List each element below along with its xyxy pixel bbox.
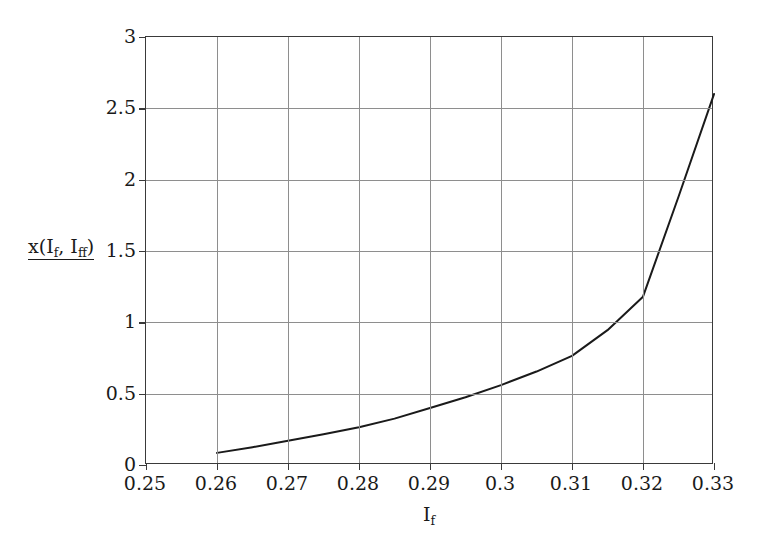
- gridline-horizontal: [146, 251, 712, 252]
- plot-area: [145, 36, 713, 464]
- y-axis-tick-label: 1: [124, 312, 136, 331]
- y-axis-tick-mark: [139, 322, 146, 323]
- gridline-horizontal: [146, 394, 712, 395]
- x-axis-tick-mark: [643, 463, 644, 470]
- gridline-horizontal: [146, 180, 712, 181]
- y-axis-tick-label: 3: [124, 27, 136, 46]
- x-axis-title: If: [145, 505, 713, 524]
- x-axis-tick-mark: [288, 463, 289, 470]
- y-axis-title-main: x(I: [28, 235, 54, 257]
- y-axis-title-subscript-2: ff: [78, 245, 87, 260]
- y-axis-tick-mark: [139, 251, 146, 252]
- x-axis-tick-mark: [430, 463, 431, 470]
- x-axis-tick-labels: 0.250.260.270.280.290.30.310.320.33: [145, 474, 713, 500]
- y-axis-tick-mark: [139, 394, 146, 395]
- gridline-vertical: [572, 37, 573, 463]
- y-axis-title-middle: , I: [58, 235, 78, 257]
- y-axis-tick-mark: [139, 108, 146, 109]
- y-axis-tick-label: 2.5: [106, 98, 136, 117]
- x-axis-tick-label: 0.32: [621, 474, 663, 493]
- x-axis-tick-mark: [501, 463, 502, 470]
- data-series-line: [217, 94, 714, 453]
- x-axis-tick-mark: [146, 463, 147, 470]
- x-axis-tick-mark: [217, 463, 218, 470]
- x-axis-tick-label: 0.26: [195, 474, 237, 493]
- x-axis-tick-mark: [714, 463, 715, 470]
- y-axis-tick-mark: [139, 180, 146, 181]
- x-axis-tick-label: 0.28: [337, 474, 379, 493]
- y-axis-tick-label: 0.5: [106, 384, 136, 403]
- gridline-vertical: [430, 37, 431, 463]
- y-axis-tick-labels: 00.511.522.53: [88, 36, 136, 464]
- x-axis-tick-label: 0.27: [266, 474, 308, 493]
- gridline-vertical: [359, 37, 360, 463]
- gridline-horizontal: [146, 322, 712, 323]
- x-axis-tick-label: 0.31: [550, 474, 592, 493]
- gridline-vertical: [501, 37, 502, 463]
- x-axis-tick-label: 0.29: [408, 474, 450, 493]
- y-axis-tick-label: 2: [124, 170, 136, 189]
- gridline-vertical: [217, 37, 218, 463]
- gridline-vertical: [288, 37, 289, 463]
- y-axis-tick-mark: [139, 37, 146, 38]
- x-axis-tick-label: 0.25: [124, 474, 166, 493]
- y-axis-title-text: x(If, Iff): [28, 236, 94, 260]
- y-axis-title: x(If, Iff): [28, 236, 94, 260]
- x-axis-tick-label: 0.3: [485, 474, 515, 493]
- x-axis-title-subscript: f: [430, 513, 435, 528]
- y-axis-tick-label: 1.5: [106, 241, 136, 260]
- gridline-horizontal: [146, 108, 712, 109]
- x-axis-tick-label: 0.33: [692, 474, 734, 493]
- y-axis-tick-mark: [139, 465, 146, 466]
- x-axis-tick-mark: [359, 463, 360, 470]
- chart-figure: x(If, Iff) 00.511.522.53 0.250.260.270.2…: [0, 0, 765, 550]
- x-axis-tick-mark: [572, 463, 573, 470]
- gridline-vertical: [643, 37, 644, 463]
